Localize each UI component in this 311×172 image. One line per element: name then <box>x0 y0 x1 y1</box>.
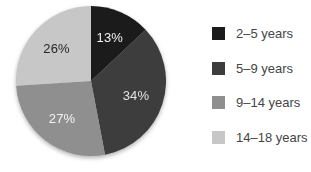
pie-slice-value-label-3: 26% <box>43 41 70 56</box>
legend-swatch-1 <box>212 62 225 75</box>
chart-legend: 2–5 years 5–9 years 9–14 years 14–18 yea… <box>212 27 308 144</box>
legend-swatch-3 <box>212 131 225 144</box>
legend-swatch-2 <box>212 96 225 109</box>
pie-slice-value-label-1: 34% <box>123 88 150 103</box>
legend-item-3: 14–18 years <box>212 131 308 144</box>
legend-item-0: 2–5 years <box>212 27 308 40</box>
legend-label-0: 2–5 years <box>236 27 293 40</box>
pie-slice-value-label-2: 27% <box>49 111 76 126</box>
legend-label-2: 9–14 years <box>236 96 300 109</box>
legend-label-1: 5–9 years <box>236 62 293 75</box>
pie-chart-figure: 13%34%27%26% 2–5 years 5–9 years 9–14 ye… <box>0 0 311 172</box>
legend-item-1: 5–9 years <box>212 62 308 75</box>
pie-chart-svg: 13%34%27%26% <box>0 0 190 172</box>
pie-slice-value-label-0: 13% <box>96 30 123 45</box>
legend-label-3: 14–18 years <box>236 131 308 144</box>
legend-item-2: 9–14 years <box>212 96 308 109</box>
legend-swatch-0 <box>212 27 225 40</box>
